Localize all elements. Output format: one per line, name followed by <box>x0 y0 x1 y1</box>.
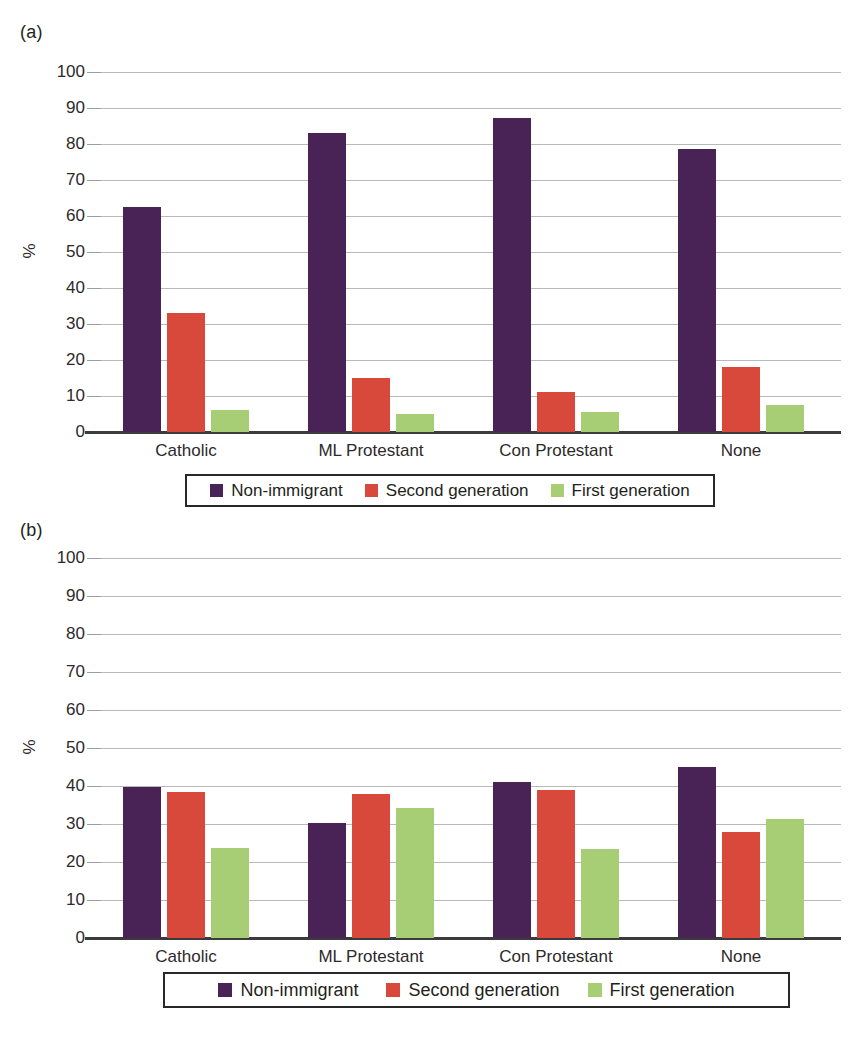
legend-item: Second generation <box>365 481 529 501</box>
bar <box>722 832 760 938</box>
legend-label: First generation <box>610 980 735 1001</box>
y-tick-mark <box>87 558 101 559</box>
bar <box>308 823 346 938</box>
y-tick-label: 10 <box>66 386 85 406</box>
bar <box>396 414 434 432</box>
bar <box>211 410 249 432</box>
y-tick-mark <box>87 396 101 397</box>
bar <box>123 787 161 938</box>
y-tick-label: 50 <box>66 738 85 758</box>
y-tick-label: 30 <box>66 314 85 334</box>
panel-a-plot-area <box>101 72 841 432</box>
y-tick-label: 50 <box>66 242 85 262</box>
bar <box>537 790 575 938</box>
y-tick-label: 100 <box>57 548 85 568</box>
bar-group <box>471 558 656 938</box>
y-tick-mark <box>87 596 101 597</box>
panel-a-legend: Non-immigrantSecond generationFirst gene… <box>185 474 715 507</box>
legend-item: Non-immigrant <box>218 980 358 1001</box>
y-tick-mark <box>87 216 101 217</box>
legend-label: Second generation <box>408 980 559 1001</box>
panel-b-legend: Non-immigrantSecond generationFirst gene… <box>163 972 790 1008</box>
y-tick-mark <box>87 288 101 289</box>
y-tick-mark <box>87 144 101 145</box>
legend-swatch-icon <box>588 983 602 997</box>
y-tick-label: 60 <box>66 700 85 720</box>
panel-b-y-tick-labels: 0102030405060708090100 <box>13 558 85 938</box>
figure-two-panel-bar-charts: (a) % 0102030405060708090100 CatholicML … <box>0 0 862 1042</box>
bar <box>766 405 804 432</box>
y-tick-mark <box>87 824 101 825</box>
bar-group <box>656 72 841 432</box>
y-tick-mark <box>87 324 101 325</box>
panel-b: (b) % 0102030405060708090100 CatholicML … <box>0 512 862 1042</box>
bar <box>396 808 434 938</box>
y-tick-label: 90 <box>66 586 85 606</box>
legend-item: Non-immigrant <box>210 481 342 501</box>
bar <box>167 792 205 938</box>
bar <box>722 367 760 432</box>
y-tick-label: 40 <box>66 776 85 796</box>
y-tick-label: 70 <box>66 170 85 190</box>
y-tick-label: 90 <box>66 98 85 118</box>
legend-swatch-icon <box>210 484 223 497</box>
panel-b-letter: (b) <box>20 520 43 541</box>
x-category-label: Catholic <box>155 441 216 461</box>
legend-swatch-icon <box>386 983 400 997</box>
y-tick-label: 20 <box>66 350 85 370</box>
bar <box>352 794 390 938</box>
y-tick-mark <box>87 360 101 361</box>
legend-swatch-icon <box>218 983 232 997</box>
bar-group <box>286 558 471 938</box>
y-tick-mark <box>87 672 101 673</box>
y-tick-label: 60 <box>66 206 85 226</box>
y-tick-mark <box>87 900 101 901</box>
x-category-label: Con Protestant <box>499 947 612 967</box>
x-category-label: None <box>721 441 762 461</box>
y-tick-mark <box>87 180 101 181</box>
bar <box>211 848 249 938</box>
x-category-label: ML Protestant <box>318 441 423 461</box>
y-tick-label: 20 <box>66 852 85 872</box>
y-tick-label: 0 <box>76 422 85 442</box>
legend-label: First generation <box>572 481 690 501</box>
bar <box>537 392 575 432</box>
y-tick-mark <box>87 786 101 787</box>
legend-swatch-icon <box>551 484 564 497</box>
panel-a-y-tick-labels: 0102030405060708090100 <box>13 72 85 432</box>
y-tick-label: 30 <box>66 814 85 834</box>
x-category-label: None <box>721 947 762 967</box>
bar-group <box>101 72 286 432</box>
y-tick-mark <box>87 252 101 253</box>
bar <box>167 313 205 432</box>
bar <box>308 133 346 432</box>
y-tick-label: 40 <box>66 278 85 298</box>
panel-a-letter: (a) <box>20 22 43 43</box>
panel-a: (a) % 0102030405060708090100 CatholicML … <box>0 0 862 512</box>
bar <box>352 378 390 432</box>
bar <box>493 118 531 432</box>
legend-label: Second generation <box>386 481 529 501</box>
legend-item: Second generation <box>386 980 559 1001</box>
y-tick-label: 80 <box>66 624 85 644</box>
bar <box>678 767 716 938</box>
y-tick-mark <box>87 108 101 109</box>
x-category-label: Catholic <box>155 947 216 967</box>
bar-group <box>656 558 841 938</box>
x-category-label: Con Protestant <box>499 441 612 461</box>
y-tick-label: 0 <box>76 928 85 948</box>
y-tick-mark <box>87 748 101 749</box>
legend-item: First generation <box>551 481 690 501</box>
y-tick-label: 80 <box>66 134 85 154</box>
bar <box>581 412 619 432</box>
panel-b-plot-area <box>101 558 841 938</box>
bar <box>766 819 804 938</box>
legend-label: Non-immigrant <box>231 481 342 501</box>
legend-item: First generation <box>588 980 735 1001</box>
y-tick-label: 10 <box>66 890 85 910</box>
bar <box>581 849 619 938</box>
y-tick-mark <box>87 72 101 73</box>
bar <box>123 207 161 432</box>
y-tick-label: 70 <box>66 662 85 682</box>
legend-swatch-icon <box>365 484 378 497</box>
